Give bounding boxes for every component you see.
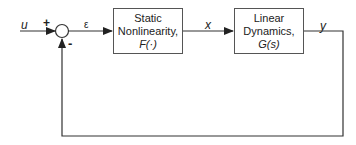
block-diagram: u + - ε x y Static Nonlinearity, F(·) Li…	[0, 0, 356, 145]
plus-sign: +	[43, 16, 50, 30]
block-title-line1: Static	[134, 12, 162, 25]
block-function: G(s)	[258, 38, 279, 51]
intermediate-label: x	[205, 18, 211, 32]
block-title-line1: Linear	[254, 12, 285, 25]
minus-sign: -	[68, 36, 72, 51]
error-label: ε	[84, 19, 88, 30]
static-nonlinearity-block: Static Nonlinearity, F(·)	[113, 8, 183, 54]
summing-junction	[56, 25, 69, 38]
block-title-line2: Nonlinearity,	[118, 25, 178, 38]
output-label: y	[320, 19, 326, 33]
linear-dynamics-block: Linear Dynamics, G(s)	[234, 8, 304, 54]
input-label: u	[21, 18, 28, 32]
block-title-line2: Dynamics,	[243, 25, 294, 38]
block-function: F(·)	[139, 38, 157, 51]
